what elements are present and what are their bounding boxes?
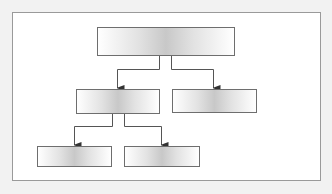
node-grandchild-1[interactable]	[37, 146, 112, 167]
connector-root-child-1	[118, 55, 160, 88]
node-child-2[interactable]	[172, 89, 257, 113]
connector-root-child-2	[172, 55, 214, 88]
node-child-1[interactable]	[76, 89, 160, 114]
node-grandchild-2[interactable]	[124, 146, 200, 167]
connector-child-1-grandchild-1	[75, 113, 113, 145]
connector-child-1-grandchild-2	[125, 113, 162, 145]
node-root[interactable]	[97, 27, 235, 56]
